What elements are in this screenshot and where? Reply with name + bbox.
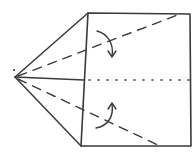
valley-fold-top xyxy=(18,14,180,76)
flap-edge-bottom xyxy=(15,77,81,146)
apex-point xyxy=(13,69,14,70)
flap-edge-top xyxy=(15,13,88,77)
origami-fold-diagram xyxy=(0,0,196,157)
flap-center-line xyxy=(15,77,84,80)
valley-fold-bottom xyxy=(18,79,160,146)
